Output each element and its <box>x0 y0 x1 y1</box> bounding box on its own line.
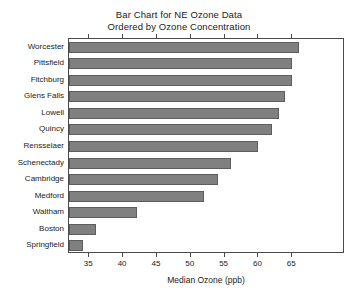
bar <box>69 240 83 251</box>
x-axis-tick-mark-top <box>224 34 225 38</box>
bar-row <box>69 138 343 155</box>
x-axis-tick-label: 65 <box>276 259 306 269</box>
bars-layer <box>69 39 343 252</box>
chart-title: Bar Chart for NE Ozone Data Ordered by O… <box>0 9 358 32</box>
bar-row <box>69 204 343 221</box>
x-axis-tick-label: 40 <box>107 259 137 269</box>
bar-chart-figure: Bar Chart for NE Ozone Data Ordered by O… <box>0 0 358 296</box>
bar <box>69 174 218 185</box>
y-axis-label: Springfield <box>0 240 64 249</box>
y-axis-label: Medford <box>0 191 64 200</box>
x-axis-tick-mark-top <box>156 34 157 38</box>
bar <box>69 108 279 119</box>
x-axis-tick-mark <box>257 253 258 257</box>
x-axis-tick-mark <box>224 253 225 257</box>
bar <box>69 75 292 86</box>
x-axis-tick-mark <box>190 253 191 257</box>
x-axis-tick-label: 60 <box>242 259 272 269</box>
bar-row <box>69 56 343 73</box>
x-axis-tick-mark <box>156 253 157 257</box>
bar <box>69 42 299 53</box>
bar-row <box>69 122 343 139</box>
bar-row <box>69 155 343 172</box>
bar-row <box>69 188 343 205</box>
bar-row <box>69 237 343 254</box>
y-axis-label: Worcester <box>0 42 64 51</box>
plot-area <box>68 38 344 253</box>
bar <box>69 224 96 235</box>
y-axis-label: Waltham <box>0 207 64 216</box>
bar <box>69 207 137 218</box>
x-axis-tick-label: 50 <box>175 259 205 269</box>
x-axis-tick-mark <box>291 253 292 257</box>
bar-row <box>69 72 343 89</box>
x-axis-tick-mark <box>122 253 123 257</box>
y-axis-category-labels: WorcesterPittsfieldFitchburgGlens FallsL… <box>0 38 64 253</box>
bar <box>69 91 285 102</box>
x-axis-tick-mark-top <box>88 34 89 38</box>
y-axis-label: Schenectady <box>0 158 64 167</box>
bar-row <box>69 221 343 238</box>
x-axis-tick-mark-top <box>190 34 191 38</box>
y-axis-label: Cambridge <box>0 174 64 183</box>
y-axis-label: Glens Falls <box>0 91 64 100</box>
bar <box>69 191 204 202</box>
bar <box>69 58 292 69</box>
y-axis-label: Rensselaer <box>0 141 64 150</box>
bar-row <box>69 89 343 106</box>
bar <box>69 141 258 152</box>
x-axis-tick-mark-top <box>291 34 292 38</box>
bar-row <box>69 105 343 122</box>
chart-title-line-2: Ordered by Ozone Concentration <box>0 21 358 33</box>
y-axis-label: Lowell <box>0 108 64 117</box>
y-axis-label: Pittsfield <box>0 58 64 67</box>
bar-row <box>69 39 343 56</box>
y-axis-label: Quincy <box>0 124 64 133</box>
x-axis-tick-mark <box>88 253 89 257</box>
x-axis-tick-mark-top <box>122 34 123 38</box>
y-axis-label: Fitchburg <box>0 75 64 84</box>
bar-row <box>69 171 343 188</box>
y-axis-label: Boston <box>0 224 64 233</box>
x-axis-tick-label: 35 <box>73 259 103 269</box>
x-axis-tick-mark-top <box>257 34 258 38</box>
chart-title-line-1: Bar Chart for NE Ozone Data <box>0 9 358 21</box>
bar <box>69 158 231 169</box>
x-axis-title: Median Ozone (ppb) <box>68 275 344 285</box>
x-axis-tick-label: 45 <box>141 259 171 269</box>
bar <box>69 124 272 135</box>
x-axis-tick-label: 55 <box>209 259 239 269</box>
